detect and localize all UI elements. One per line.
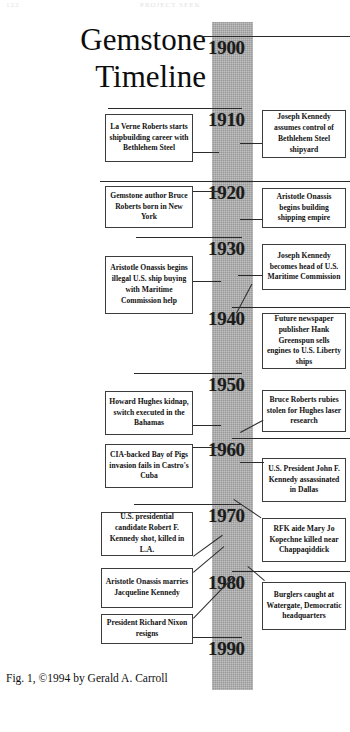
page-title-line-1: Gemstone — [10, 22, 206, 59]
year-label-1970: 1970 — [208, 506, 260, 525]
page-title-line-2: Timeline — [10, 59, 206, 96]
year-label-1960: 1960 — [208, 440, 260, 459]
decade-rule-1980 — [232, 571, 350, 572]
event-box-left-2-text: Gemstone author Bruce Roberts born in Ne… — [109, 191, 189, 223]
year-label-1900: 1900 — [208, 38, 260, 57]
connector-right-3 — [238, 275, 262, 276]
event-box-left-2: Gemstone author Bruce Roberts born in Ne… — [105, 186, 193, 228]
event-box-left-8: President Richard Nixon resigns — [101, 614, 193, 644]
event-box-left-5-text: CIA-backed Bay of Pigs invasion fails in… — [109, 450, 189, 482]
connector-left-1 — [193, 152, 219, 153]
running-head-page-number: 122 — [6, 1, 20, 9]
connector-left-5 — [193, 447, 219, 448]
event-box-right-4: Future newspaper publisher Hank Greenspu… — [262, 313, 346, 369]
connector-left-4 — [193, 425, 221, 426]
event-box-right-2-text: Aristotle Onassis begins building shippi… — [266, 192, 342, 224]
year-label-1910: 1910 — [208, 110, 260, 129]
event-box-right-3-text: Joseph Kennedy becomes head of U.S. Mari… — [266, 251, 342, 283]
running-head: 122 PROJECT SEEK — [0, 0, 350, 12]
event-box-right-5: Bruce Roberts rubies stolen for Hughes l… — [262, 390, 346, 432]
event-box-left-7-text: Aristotle Onassis marries Jacqueline Ken… — [105, 577, 189, 599]
event-box-right-6: U.S. President John F. Kennedy assassina… — [262, 458, 346, 502]
event-box-left-5: CIA-backed Bay of Pigs invasion fails in… — [105, 444, 193, 488]
connector-right-6 — [240, 462, 264, 463]
event-box-left-3-text: Aristotle Onassis begins illegal U.S. sh… — [109, 263, 189, 306]
event-box-left-7: Aristotle Onassis marries Jacqueline Ken… — [101, 568, 193, 608]
year-label-1940: 1940 — [208, 309, 260, 328]
event-box-right-1-text: Joseph Kennedy assumes control of Bethle… — [266, 112, 342, 155]
event-box-right-1: Joseph Kennedy assumes control of Bethle… — [262, 110, 346, 158]
event-box-left-3: Aristotle Onassis begins illegal U.S. sh… — [105, 256, 193, 314]
year-label-1930: 1930 — [208, 239, 260, 258]
page-title: Gemstone Timeline — [10, 22, 206, 95]
year-label-1920: 1920 — [208, 183, 260, 202]
timeline-figure: 122 PROJECT SEEK Gemstone Timeline 1900 … — [0, 0, 350, 732]
event-box-right-2: Aristotle Onassis begins building shippi… — [262, 188, 346, 228]
event-box-left-6-text: U.S. presidential candidate Robert F. Ke… — [105, 512, 189, 555]
year-label-1980: 1980 — [208, 573, 260, 592]
figure-caption: Fig. 1, ©1994 by Gerald A. Carroll — [6, 672, 168, 684]
event-box-right-3: Joseph Kennedy becomes head of U.S. Mari… — [262, 244, 346, 290]
event-box-left-1-text: La Verne Roberts starts shipbuilding car… — [109, 122, 189, 154]
year-label-1950: 1950 — [208, 375, 260, 394]
connector-right-1 — [240, 143, 262, 144]
event-box-right-8-text: Burglers caught at Watergate, Democratic… — [266, 590, 342, 622]
connector-left-2 — [193, 191, 219, 192]
event-box-left-4: Howard Hughes kidnap, switch executed in… — [105, 391, 193, 435]
event-box-right-7: RFK aide Mary Jo Kopechne killed near Ch… — [262, 518, 346, 562]
event-box-left-6: U.S. presidential candidate Robert F. Ke… — [101, 512, 193, 556]
event-box-left-1: La Verne Roberts starts shipbuilding car… — [105, 114, 193, 162]
event-box-right-5-text: Bruce Roberts rubies stolen for Hughes l… — [266, 395, 342, 427]
event-box-right-4-text: Future newspaper publisher Hank Greenspu… — [266, 314, 342, 368]
event-box-left-4-text: Howard Hughes kidnap, switch executed in… — [109, 397, 189, 429]
connector-left-3 — [193, 281, 221, 282]
year-label-1990: 1990 — [208, 639, 260, 658]
event-box-right-7-text: RFK aide Mary Jo Kopechne killed near Ch… — [266, 524, 342, 556]
decade-rule-1960 — [232, 438, 350, 439]
event-box-right-8: Burglers caught at Watergate, Democratic… — [262, 582, 346, 630]
decade-rule-1940 — [232, 307, 350, 308]
event-box-left-8-text: President Richard Nixon resigns — [105, 618, 189, 640]
event-box-right-6-text: U.S. President John F. Kennedy assassina… — [266, 464, 342, 496]
running-head-title: PROJECT SEEK — [140, 1, 201, 9]
connector-right-2 — [240, 219, 262, 220]
